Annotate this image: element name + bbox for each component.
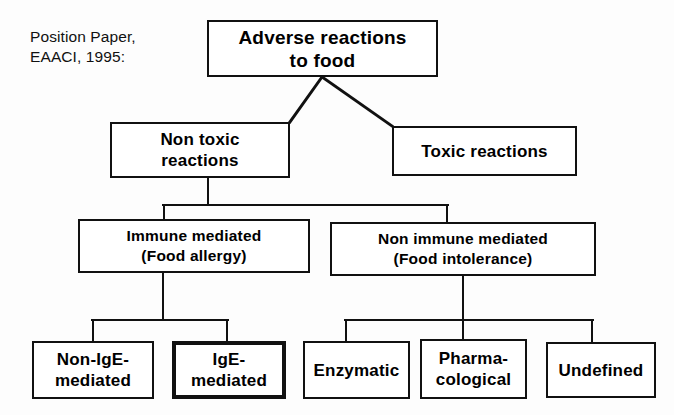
node-label: Adverse reactions to food <box>234 26 410 72</box>
node-toxic-reactions[interactable]: Toxic reactions <box>392 126 577 176</box>
node-label: Immune mediated (Food allergy) <box>123 226 266 266</box>
connector-root-to-nontoxic <box>290 77 322 122</box>
node-label: Non immune mediated (Food intolerance) <box>374 229 552 269</box>
node-non-ige-mediated[interactable]: Non-IgE- mediated <box>32 341 154 399</box>
node-enzymatic[interactable]: Enzymatic <box>303 341 410 399</box>
node-label: Non toxic reactions <box>156 129 243 171</box>
node-label: Non-IgE- mediated <box>51 349 135 391</box>
node-non-immune-mediated-food-intolerance[interactable]: Non immune mediated (Food intolerance) <box>330 222 596 276</box>
node-ige-mediated[interactable]: IgE- mediated <box>172 341 286 399</box>
node-label: IgE- mediated <box>187 349 271 391</box>
node-label: Undefined <box>555 360 648 381</box>
node-immune-mediated-food-allergy[interactable]: Immune mediated (Food allergy) <box>78 219 310 273</box>
node-label: Enzymatic <box>310 360 404 381</box>
node-adverse-reactions-to-food[interactable]: Adverse reactions to food <box>207 20 438 77</box>
node-label: Pharma- cological <box>432 348 516 390</box>
connector-root-to-toxic <box>322 77 392 126</box>
node-label: Toxic reactions <box>417 141 551 162</box>
node-undefined[interactable]: Undefined <box>546 342 656 398</box>
source-caption: Position Paper, EAACI, 1995: <box>30 27 136 67</box>
node-non-toxic-reactions[interactable]: Non toxic reactions <box>110 122 290 178</box>
diagram-canvas: Position Paper, EAACI, 1995: Adverse rea… <box>0 0 674 415</box>
node-pharmacological[interactable]: Pharma- cological <box>420 339 527 399</box>
